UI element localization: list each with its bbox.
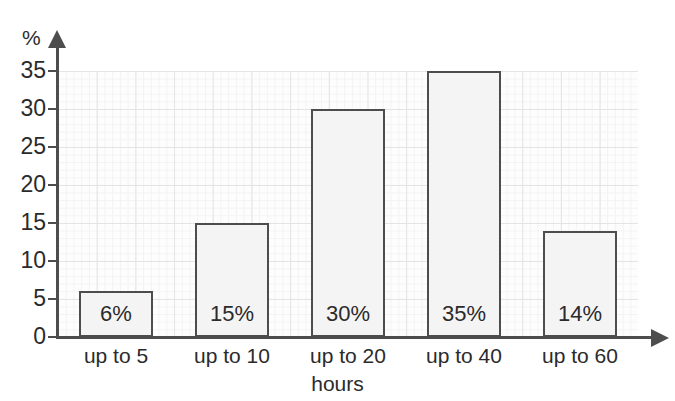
y-axis-tick-label: 0 bbox=[2, 325, 46, 348]
bar-value-label: 30% bbox=[313, 301, 383, 327]
bar: 30% bbox=[311, 109, 385, 337]
y-axis-tick-label: 30 bbox=[2, 97, 46, 120]
x-axis-category-label: up to 5 bbox=[58, 344, 174, 368]
bar: 14% bbox=[543, 231, 617, 337]
x-axis-arrow-icon bbox=[651, 329, 669, 347]
bar-value-label: 14% bbox=[545, 301, 615, 327]
bar-chart: % 05101520253035 6%15%30%35%14% up to 5u… bbox=[0, 0, 675, 401]
y-axis-arrow-icon bbox=[48, 30, 66, 48]
y-axis-tick bbox=[48, 70, 59, 72]
y-axis-tick bbox=[48, 108, 59, 110]
bar-value-label: 35% bbox=[429, 301, 499, 327]
y-axis-tick-label: 25 bbox=[2, 135, 46, 158]
x-axis-category-label: up to 40 bbox=[406, 344, 522, 368]
y-axis-tick-label: 10 bbox=[2, 249, 46, 272]
bar: 15% bbox=[195, 223, 269, 337]
y-axis-line bbox=[56, 45, 59, 338]
bar: 6% bbox=[79, 291, 153, 337]
bar-value-label: 6% bbox=[81, 301, 151, 327]
y-axis-tick-label: 20 bbox=[2, 173, 46, 196]
y-axis-tick bbox=[48, 222, 59, 224]
x-axis-category-label: up to 10 bbox=[174, 344, 290, 368]
y-axis-tick bbox=[48, 336, 59, 338]
y-axis-tick bbox=[48, 260, 59, 262]
y-axis-tick-label: 35 bbox=[2, 59, 46, 82]
x-axis-category-label: up to 60 bbox=[522, 344, 638, 368]
bar: 35% bbox=[427, 71, 501, 337]
y-axis-tick-label: 15 bbox=[2, 211, 46, 234]
y-axis-tick-label: 5 bbox=[2, 287, 46, 310]
y-axis-title: % bbox=[22, 26, 41, 50]
bar-value-label: 15% bbox=[197, 301, 267, 327]
x-axis-category-label: up to 20 bbox=[290, 344, 406, 368]
y-axis-tick bbox=[48, 146, 59, 148]
y-axis-tick bbox=[48, 184, 59, 186]
x-axis-title: hours bbox=[0, 372, 675, 396]
y-axis-tick bbox=[48, 298, 59, 300]
